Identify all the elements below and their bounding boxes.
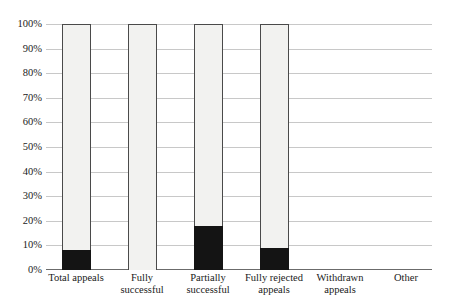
gridline-50 — [46, 147, 432, 148]
y-tick-label: 80% — [2, 68, 42, 79]
y-tick-label: 10% — [2, 240, 42, 251]
bar-segment-light — [194, 24, 223, 226]
x-tick-label-other: Other — [367, 272, 445, 284]
x-axis: Total appeals Fully successful Partially… — [46, 272, 432, 292]
y-tick-label: 100% — [2, 19, 42, 30]
bar-stack — [128, 24, 157, 270]
y-tick-label: 40% — [2, 166, 42, 177]
y-tick-label: 90% — [2, 43, 42, 54]
gridline-40 — [46, 172, 432, 173]
bar-segment-dark — [62, 250, 91, 270]
bar-segment-light — [260, 24, 289, 248]
y-tick-label: 70% — [2, 93, 42, 104]
bar-stack — [62, 24, 91, 270]
y-axis: 100% 90% 80% 70% 60% 50% 40% 30% 20% 10%… — [0, 24, 42, 270]
y-tick-label: 60% — [2, 117, 42, 128]
bar-segment-dark — [194, 226, 223, 270]
gridline-60 — [46, 122, 432, 123]
gridline-100 — [46, 24, 432, 25]
x-axis-line — [46, 269, 432, 270]
plot-area — [46, 24, 432, 270]
x-tick-line-2: appeals — [301, 284, 379, 295]
x-tick-line-1: Other — [367, 272, 445, 284]
gridline-20 — [46, 221, 432, 222]
y-tick-label: 30% — [2, 191, 42, 202]
y-tick-label: 50% — [2, 142, 42, 153]
bar-segment-dark — [260, 248, 289, 270]
gridline-10 — [46, 245, 432, 246]
y-tick-label: 20% — [2, 216, 42, 227]
bar-stack — [260, 24, 289, 270]
y-tick-label: 0% — [2, 265, 42, 276]
gridline-70 — [46, 98, 432, 99]
bar-segment-light — [62, 24, 91, 250]
bar-stack — [194, 24, 223, 270]
gridline-30 — [46, 196, 432, 197]
gridline-90 — [46, 49, 432, 50]
gridline-80 — [46, 73, 432, 74]
bar-segment-light — [128, 24, 157, 270]
